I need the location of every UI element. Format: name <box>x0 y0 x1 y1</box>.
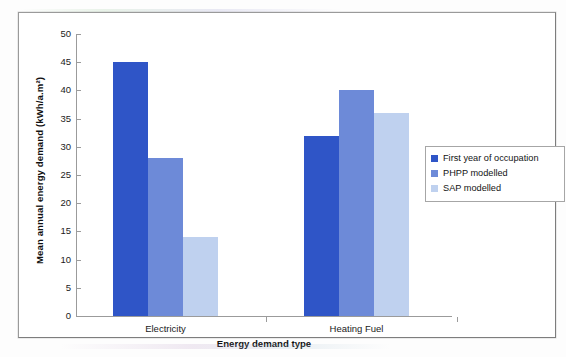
x-axis-tick <box>457 317 458 322</box>
bar <box>304 136 339 316</box>
y-axis-tick <box>76 316 81 317</box>
x-axis-category-label: Electricity <box>116 323 216 334</box>
scanned-page: 05101520253035404550 Mean annual energy … <box>0 0 566 357</box>
x-axis-line <box>76 316 452 317</box>
bar <box>374 113 409 316</box>
x-axis-tick <box>266 317 267 322</box>
bar <box>339 90 374 316</box>
x-axis-category-label: Heating Fuel <box>307 323 407 334</box>
legend-item: PHPP modelled <box>431 166 559 181</box>
bar <box>113 62 148 316</box>
y-axis-title: Mean annual energy demand (kWh/a.m²) <box>34 46 45 296</box>
legend-item: SAP modelled <box>431 181 559 196</box>
legend-color-swatch-icon <box>431 170 438 177</box>
legend-color-swatch-icon <box>431 155 438 162</box>
plot-area <box>76 34 451 316</box>
bar <box>183 237 218 316</box>
y-axis-tick-label: 0 <box>31 311 71 321</box>
chart-frame: 05101520253035404550 Mean annual energy … <box>18 12 556 338</box>
legend-item-label: SAP modelled <box>443 184 501 193</box>
legend-item: First year of occupation <box>431 151 559 166</box>
legend-item-label: PHPP modelled <box>443 169 508 178</box>
bar <box>148 158 183 316</box>
x-axis-title: Energy demand type <box>76 338 452 349</box>
legend-item-label: First year of occupation <box>443 154 539 163</box>
chart-legend: First year of occupationPHPP modelledSAP… <box>425 146 565 202</box>
legend-color-swatch-icon <box>431 185 438 192</box>
y-axis-tick-label: 50 <box>31 29 71 39</box>
